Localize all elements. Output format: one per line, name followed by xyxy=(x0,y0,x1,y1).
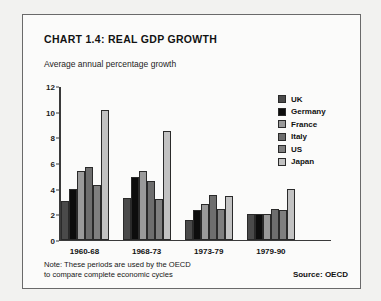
chart-frame: CHART 1.4: REAL GDP GROWTH Average annua… xyxy=(22,14,361,289)
legend-label: US xyxy=(291,145,302,154)
chart-note-line-2: to compare complete economic cycles xyxy=(44,270,191,280)
bar xyxy=(139,171,147,240)
legend-item: France xyxy=(278,118,358,130)
y-axis-tick-label: 0 xyxy=(51,237,55,246)
y-axis-tick-mark xyxy=(56,112,59,113)
legend-swatch-icon xyxy=(278,108,286,116)
y-axis-tick-label: 8 xyxy=(51,134,55,143)
legend-label: Germany xyxy=(291,107,326,116)
bar xyxy=(193,210,201,239)
y-axis-tick-label: 6 xyxy=(51,160,55,169)
legend-swatch-icon xyxy=(278,120,286,128)
bar xyxy=(279,210,287,239)
x-axis-tick-label: 1973-79 xyxy=(185,247,233,256)
y-axis-tick-label: 10 xyxy=(46,108,55,117)
bar xyxy=(123,198,131,240)
legend-item: Italy xyxy=(278,131,358,143)
bar xyxy=(147,181,155,239)
y-axis-tick-mark xyxy=(56,189,59,190)
bar xyxy=(271,209,279,240)
bar xyxy=(287,189,295,240)
bar xyxy=(131,177,139,239)
bar xyxy=(255,214,263,239)
x-axis-tick-label: 1968-73 xyxy=(123,247,171,256)
legend-label: Japan xyxy=(291,157,314,166)
bar xyxy=(61,201,69,239)
legend-swatch-icon xyxy=(278,133,286,141)
bar xyxy=(85,167,93,239)
bar xyxy=(93,185,101,240)
bar xyxy=(263,214,271,239)
chart-note-line-1: Note: These periods are used by the OECD xyxy=(44,260,191,270)
bar-group: 1960-68 xyxy=(61,87,123,240)
y-axis-tick-mark xyxy=(56,87,59,88)
bar xyxy=(201,204,209,240)
bar-group: 1968-73 xyxy=(123,87,185,240)
bar xyxy=(225,196,233,239)
x-axis-tick-label: 1960-68 xyxy=(61,247,109,256)
legend-swatch-icon xyxy=(278,95,286,103)
bar-group: 1973-79 xyxy=(185,87,247,240)
x-axis-tick-label: 1979-90 xyxy=(247,247,295,256)
chart-legend: UKGermanyFranceItalyUSJapan xyxy=(278,93,358,168)
chart-note: Note: These periods are used by the OECD… xyxy=(44,260,191,280)
legend-item: Japan xyxy=(278,156,358,168)
bar xyxy=(209,195,217,239)
chart-title: CHART 1.4: REAL GDP GROWTH xyxy=(44,33,217,45)
y-axis-tick-mark xyxy=(56,138,59,139)
bar xyxy=(247,214,255,239)
legend-item: Germany xyxy=(278,106,358,118)
y-axis-tick-mark xyxy=(56,164,59,165)
bar xyxy=(155,199,163,240)
y-axis-tick-label: 2 xyxy=(51,211,55,220)
bar xyxy=(69,189,77,240)
y-axis-tick-mark xyxy=(56,215,59,216)
legend-label: UK xyxy=(291,95,303,104)
legend-label: Italy xyxy=(291,132,307,141)
chart-subtitle: Average annual percentage growth xyxy=(44,59,176,69)
bar xyxy=(163,131,171,239)
bar xyxy=(217,209,225,240)
bar xyxy=(77,171,85,240)
plot-area: 024681012 1960-681968-731973-791979-90 xyxy=(59,87,309,241)
bar-groups: 1960-681968-731973-791979-90 xyxy=(61,87,310,240)
chart-source: Source: OECD xyxy=(293,270,348,279)
legend-label: France xyxy=(291,120,317,129)
legend-swatch-icon xyxy=(278,145,286,153)
bar xyxy=(185,220,193,239)
y-axis-tick-label: 4 xyxy=(51,185,55,194)
bar xyxy=(101,110,109,240)
y-axis-tick-mark xyxy=(56,241,59,242)
y-axis-tick-label: 12 xyxy=(46,83,55,92)
legend-item: UK xyxy=(278,93,358,105)
x-axis-line xyxy=(59,240,331,242)
legend-item: US xyxy=(278,143,358,155)
legend-swatch-icon xyxy=(278,158,286,166)
chart-page: CHART 1.4: REAL GDP GROWTH Average annua… xyxy=(0,0,381,301)
